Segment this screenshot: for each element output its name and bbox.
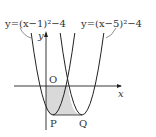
curve1-leader (20, 28, 31, 38)
point-p-label: P (50, 118, 57, 129)
curve1-label: y=(x−1)²−4 (4, 18, 66, 29)
curve2-label: y=(x−5)²−4 (80, 18, 142, 29)
y-axis-arrow-icon (44, 31, 48, 37)
origin-label: O (49, 74, 57, 85)
graph: y=(x−1)²−4 y=(x−5)²−4 y x O P Q (0, 0, 156, 137)
x-axis-label: x (118, 88, 124, 99)
point-q-label: Q (79, 118, 87, 129)
curve2-leader (106, 28, 116, 38)
y-axis-label: y (37, 30, 44, 41)
